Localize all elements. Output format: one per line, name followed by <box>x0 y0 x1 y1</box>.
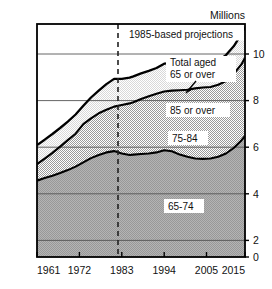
y-tick-label-10: 10 <box>253 48 265 60</box>
x-tick-label-1961: 1961 <box>37 264 61 276</box>
band-label-85-plus: 85 or over <box>166 103 230 117</box>
x-tick-label-1994: 1994 <box>153 264 177 276</box>
x-tick-label-2005: 2005 <box>195 264 219 276</box>
band-label-75-84-text: 75-84 <box>172 133 198 144</box>
x-tick-label-1983: 1983 <box>110 264 134 276</box>
x-tick-label-2015: 2015 <box>222 264 246 276</box>
band-label-85-plus-text: 85 or over <box>170 105 216 116</box>
chart-container: 10 8 6 4 2 0 1961 1972 1983 1994 2005 20… <box>0 0 272 289</box>
y-tick-label-8: 8 <box>253 94 259 106</box>
y-tick-label-0: 0 <box>253 251 259 263</box>
y-tick-label-6: 6 <box>253 141 259 153</box>
x-tick-label-1972: 1972 <box>68 264 92 276</box>
projection-note: 1985-based projections <box>124 27 244 41</box>
band-label-65-74: 65-74 <box>164 199 204 213</box>
band-label-65-74-text: 65-74 <box>168 201 194 212</box>
y-tick-label-2: 2 <box>253 234 259 246</box>
unit-label: Millions <box>210 9 245 21</box>
band-label-75-84: 75-84 <box>168 131 208 145</box>
total-aged-callout-line1: Total aged <box>170 57 216 68</box>
population-area-chart: 10 8 6 4 2 0 1961 1972 1983 1994 2005 20… <box>0 0 272 289</box>
projection-note-text: 1985-based projections <box>129 29 233 40</box>
total-aged-callout-line2: 65 or over <box>170 69 216 80</box>
y-tick-label-4: 4 <box>253 188 259 200</box>
